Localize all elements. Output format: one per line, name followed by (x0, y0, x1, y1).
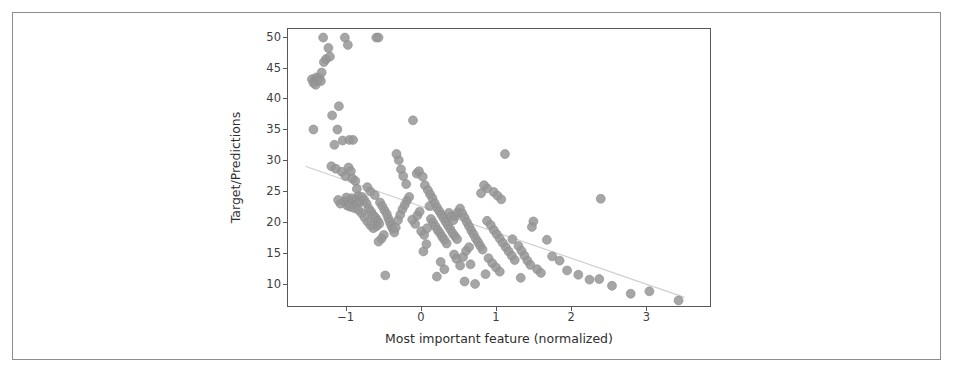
scatter-point (510, 256, 519, 265)
y-tick-labels: 101520253035404550 (243, 28, 281, 307)
scatter-point (465, 243, 474, 252)
x-tick-label: −1 (337, 311, 354, 324)
scatter-point (392, 150, 401, 159)
scatter-point (608, 281, 617, 290)
y-tick-label: 25 (247, 185, 281, 196)
scatter-point (542, 235, 551, 244)
y-tick-label: 50 (247, 31, 281, 42)
scatter-point (626, 289, 635, 298)
scatter-point (516, 273, 525, 282)
y-tick-label: 40 (247, 93, 281, 104)
scatter-point (481, 270, 490, 279)
scatter-point (317, 68, 326, 77)
y-tick-label: 35 (247, 124, 281, 135)
scatter-point (563, 266, 572, 275)
scatter-point (527, 222, 536, 231)
scatter-point (456, 261, 465, 270)
scatter-point (402, 180, 411, 189)
scatter-point (477, 189, 486, 198)
scatter-point (436, 257, 445, 266)
scatter-point (471, 279, 480, 288)
scatter-point (415, 207, 424, 216)
scatter-point (453, 235, 462, 244)
scatter-point (334, 196, 343, 205)
scatter-point (480, 181, 489, 190)
scatter-points (307, 33, 683, 305)
scatter-point (374, 33, 383, 42)
scatter-point (423, 224, 432, 233)
x-tick-label: 1 (492, 311, 499, 324)
scatter-point (585, 275, 594, 284)
y-tick-label: 45 (247, 62, 281, 73)
scatter-point (370, 191, 379, 200)
y-axis-title: Target/Predictions (228, 28, 244, 307)
figure-root: 101520253035404550 −10123 Most important… (0, 0, 954, 373)
y-tick-label: 15 (247, 247, 281, 258)
scatter-point (466, 260, 475, 269)
scatter-point (334, 102, 343, 111)
scatter-point (536, 268, 545, 277)
scatter-point (497, 195, 506, 204)
scatter-point (574, 270, 583, 279)
x-tick-label: 3 (643, 311, 650, 324)
scatter-point (674, 296, 683, 305)
scatter-point (333, 125, 342, 134)
scatter-plot-axes (287, 28, 711, 307)
scatter-point (349, 135, 358, 144)
y-tick-label: 20 (247, 216, 281, 227)
scatter-point (351, 177, 360, 186)
scatter-point (354, 205, 363, 214)
scatter-point (309, 125, 318, 134)
scatter-point (422, 240, 431, 249)
scatter-point (324, 44, 333, 53)
x-tick-label: 0 (417, 311, 424, 324)
scatter-point (328, 111, 337, 120)
scatter-point (442, 239, 451, 248)
scatter-point (408, 116, 417, 125)
x-tick-label: 2 (567, 311, 574, 324)
x-tick-labels: −10123 (287, 311, 711, 327)
scatter-point (399, 172, 408, 181)
scatter-point (316, 77, 325, 86)
scatter-point (330, 140, 339, 149)
y-tick-label: 30 (247, 155, 281, 166)
scatter-plot-canvas (288, 29, 710, 306)
scatter-point (418, 172, 427, 181)
scatter-point (325, 52, 334, 61)
scatter-point (374, 237, 383, 246)
scatter-point (595, 275, 604, 284)
scatter-point (478, 245, 487, 254)
scatter-point (363, 183, 372, 192)
y-tick-label: 10 (247, 278, 281, 289)
scatter-point (596, 194, 605, 203)
scatter-point (501, 150, 510, 159)
scatter-point (425, 202, 434, 211)
scatter-point (508, 235, 517, 244)
scatter-point (343, 40, 352, 49)
scatter-point (460, 277, 469, 286)
scatter-point (319, 33, 328, 42)
scatter-point (495, 267, 504, 276)
scatter-point (555, 256, 564, 265)
scatter-point (645, 287, 654, 296)
scatter-point (381, 271, 390, 280)
x-axis-title: Most important feature (normalized) (287, 331, 711, 346)
scatter-point (405, 192, 414, 201)
scatter-point (432, 272, 441, 281)
